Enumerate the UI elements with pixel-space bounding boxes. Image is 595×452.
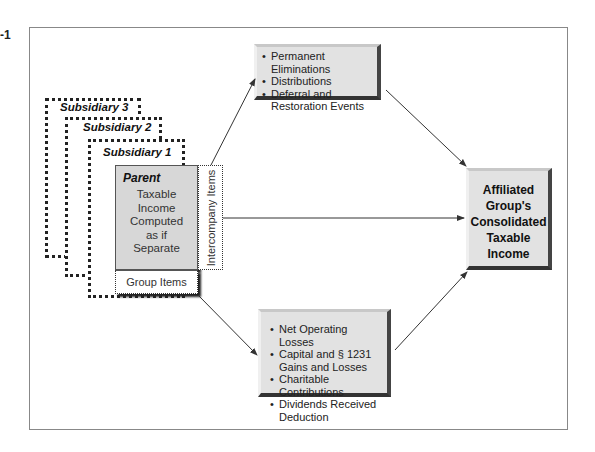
flow-arrows <box>0 0 595 452</box>
arrow-top-to-result <box>386 90 466 166</box>
arrow-to-bottom-box <box>198 295 257 355</box>
arrow-to-top-box <box>211 79 255 165</box>
arrow-bottom-to-result <box>395 272 467 350</box>
